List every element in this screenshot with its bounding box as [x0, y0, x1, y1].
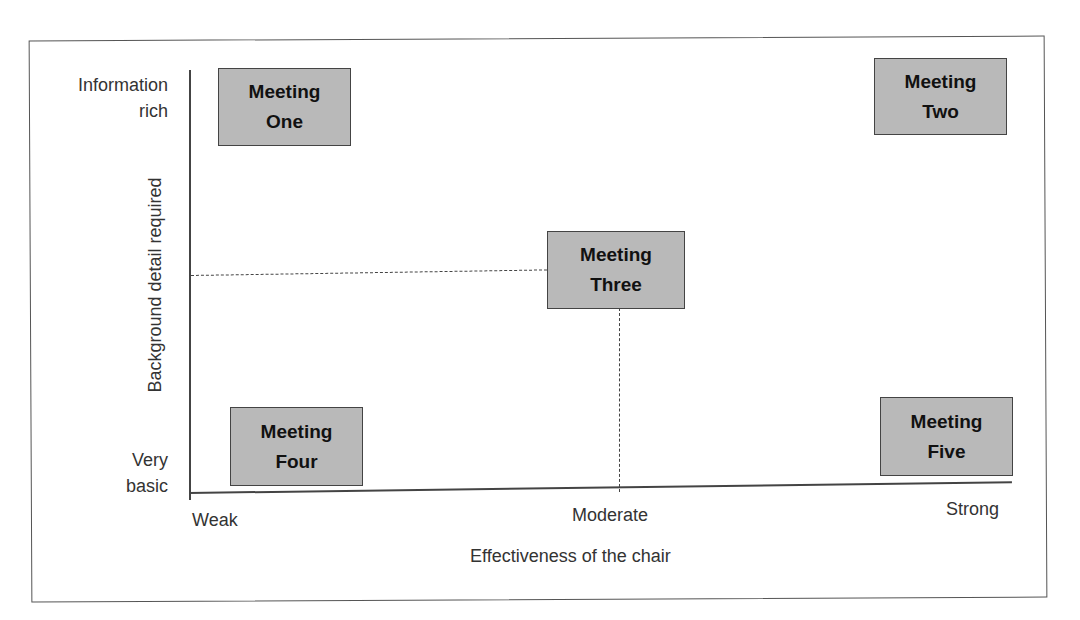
meeting-four-label-line1: Meeting [261, 417, 333, 447]
meeting-five-label-line2: Five [927, 437, 965, 467]
meeting-four-box: Meeting Four [230, 407, 363, 486]
x-axis-title: Effectiveness of the chair [470, 546, 671, 567]
x-tick-strong: Strong [946, 499, 999, 520]
y-high-label-line2: rich [38, 98, 168, 124]
y-low-label-line2: basic [38, 473, 168, 499]
y-high-label-line1: Information [38, 72, 168, 98]
y-axis-title: Background detail required [145, 177, 166, 392]
meeting-five-label-line1: Meeting [911, 407, 983, 437]
x-tick-weak: Weak [192, 510, 238, 531]
meeting-five-box: Meeting Five [880, 397, 1013, 476]
x-tick-moderate: Moderate [572, 505, 648, 526]
meeting-four-label-line2: Four [275, 447, 317, 477]
meeting-one-label-line1: Meeting [249, 77, 321, 107]
meeting-two-label-line2: Two [922, 97, 959, 127]
y-axis-line [189, 70, 191, 500]
meeting-three-label-line2: Three [590, 270, 642, 300]
vertical-guide-dashed-line [619, 308, 620, 492]
meeting-one-label-line2: One [266, 107, 303, 137]
meeting-three-box: Meeting Three [547, 231, 685, 309]
y-low-label-line1: Very [38, 447, 168, 473]
meeting-one-box: Meeting One [218, 68, 351, 146]
meeting-two-box: Meeting Two [874, 58, 1007, 135]
meeting-three-label-line1: Meeting [580, 240, 652, 270]
meeting-two-label-line1: Meeting [905, 67, 977, 97]
y-axis-high-label: Information rich [38, 72, 168, 124]
y-axis-low-label: Very basic [38, 447, 168, 499]
